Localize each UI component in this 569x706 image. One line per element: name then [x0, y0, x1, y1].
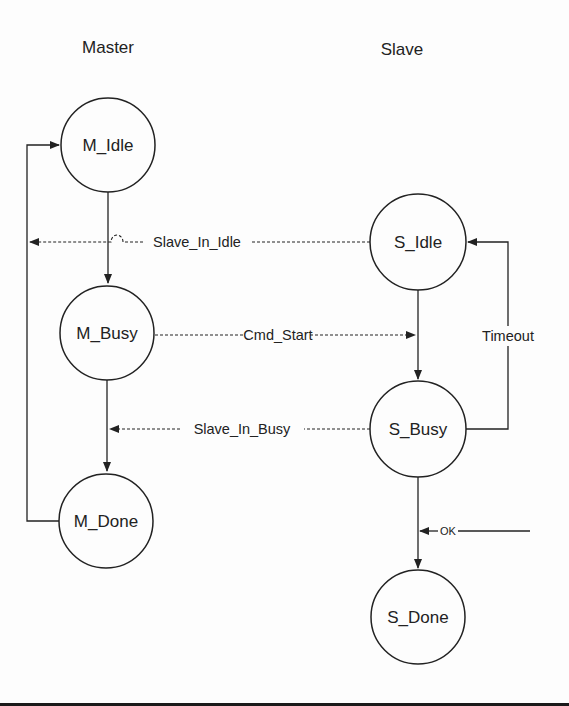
master-heading: Master: [82, 38, 134, 57]
state-diagram: Master Slave M_Idle M_Busy M_Done S_Idle…: [0, 0, 569, 706]
state-s-busy: S_Busy: [370, 381, 466, 477]
state-m-done: M_Done: [59, 474, 153, 568]
state-label: S_Busy: [389, 420, 448, 439]
state-m-busy: M_Busy: [60, 286, 154, 380]
slave-in-idle-label: Slave_In_Idle: [153, 234, 241, 250]
state-label: M_Busy: [76, 324, 138, 343]
state-label: S_Done: [387, 608, 448, 627]
arrow-m-done-to-m-idle: [27, 145, 59, 521]
slave-in-idle-arrow: [30, 235, 143, 242]
state-label: M_Done: [74, 512, 138, 531]
ok-label: OK: [440, 525, 457, 537]
slave-heading: Slave: [381, 40, 424, 59]
state-m-idle: M_Idle: [61, 98, 155, 192]
state-label: M_Idle: [82, 136, 133, 155]
state-s-done: S_Done: [371, 570, 465, 664]
slave-in-busy-label: Slave_In_Busy: [194, 421, 291, 437]
cmd-start-label: Cmd_Start: [243, 327, 312, 343]
state-label: S_Idle: [394, 233, 442, 252]
state-s-idle: S_Idle: [370, 194, 466, 290]
timeout-label: Timeout: [482, 328, 534, 344]
